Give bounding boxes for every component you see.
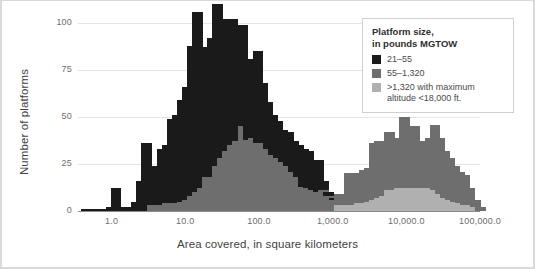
y-tick-25: 25: [44, 158, 72, 168]
figure-border-top: [0, 0, 535, 1]
legend-label-line1: >1,320 with maximum: [387, 82, 475, 93]
x-tick-10: 10.0: [176, 216, 194, 226]
x-tick-100000: 100,000.0: [459, 216, 501, 226]
bar-segment: [470, 200, 481, 208]
bar-segment: [96, 209, 107, 211]
legend-entry: 21–55: [372, 54, 505, 65]
legend-title-line2: in pounds MGTOW: [372, 38, 505, 50]
legend: Platform size, in pounds MGTOW 21–5555–1…: [362, 18, 514, 113]
x-tick-10000: 10,000.0: [388, 216, 425, 226]
x-axis-title: Area covered, in square kilometers: [0, 238, 535, 250]
x-tick-100: 100.0: [247, 216, 271, 226]
y-tick-100: 100: [44, 17, 72, 27]
y-tick-50: 50: [44, 111, 72, 121]
legend-label: >1,320 with maximumaltitude <18,000 ft.: [387, 82, 475, 104]
x-axis-tick-labels: 1.010.0100.01,000.010,000.0100,000.0: [0, 216, 535, 230]
histogram-bar: [81, 209, 92, 211]
chart-figure: Number of platforms 0255075100 1.010.010…: [0, 0, 535, 269]
bar-segment: [81, 209, 92, 211]
legend-title: Platform size, in pounds MGTOW: [372, 26, 505, 50]
legend-entry: 55–1,320: [372, 68, 505, 79]
histogram-bar: [475, 207, 486, 211]
y-tick-75: 75: [44, 64, 72, 74]
legend-entry: >1,320 with maximumaltitude <18,000 ft.: [372, 82, 505, 104]
x-tick-1: 1.0: [105, 216, 118, 226]
legend-entries: 21–5555–1,320>1,320 with maximumaltitude…: [372, 54, 505, 104]
legend-label-line2: altitude <18,000 ft.: [387, 93, 475, 104]
legend-swatch-icon: [372, 69, 381, 78]
bar-segment: [318, 181, 329, 190]
legend-swatch-icon: [372, 55, 381, 64]
legend-title-line1: Platform size,: [372, 26, 505, 38]
y-tick-0: 0: [44, 205, 72, 215]
bar-segment: [323, 192, 334, 196]
y-axis-title: Number of platforms: [18, 22, 30, 222]
legend-label: 21–55: [387, 54, 412, 65]
legend-label-line1: 21–55: [387, 54, 412, 65]
legend-label: 55–1,320: [387, 68, 425, 79]
bar-segment: [475, 207, 486, 211]
legend-swatch-icon: [372, 83, 381, 92]
x-tick-1000: 1,000.0: [317, 216, 348, 226]
gridline-0: [78, 211, 480, 212]
histogram-bar: [96, 209, 107, 211]
legend-label-line1: 55–1,320: [387, 68, 425, 79]
